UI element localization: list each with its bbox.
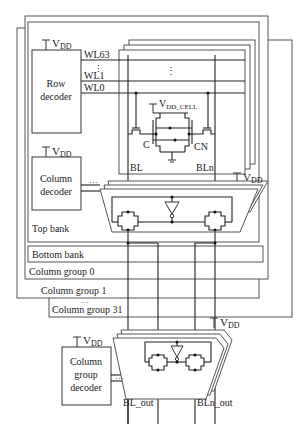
group-decoder-label-1: Column	[70, 356, 102, 367]
array-plane-1	[119, 50, 245, 174]
bottom-bank-label: Bottom bank	[32, 249, 84, 260]
row-decoder-label-1: Row	[47, 78, 67, 89]
array-ellipsis: ⋮	[166, 65, 176, 76]
column-decoder-label-1: Column	[40, 173, 72, 184]
node-c-label: C	[143, 139, 150, 150]
bln-label: BLn	[196, 162, 214, 173]
bl-out-label: BL_out	[123, 397, 154, 408]
column-bus-ellipsis: …	[89, 175, 98, 185]
bln-out-label: BLn_out	[197, 397, 233, 408]
vdd-label-group-decoder: VDD	[83, 334, 103, 348]
wordline-label-0: WL0	[84, 82, 105, 93]
vdd-symbol-group-decoder	[73, 337, 81, 347]
sram-architecture-diagram: VDD Row decoder WL63 ⋮ WL1 WL0 ⋮ VDD_CEL…	[0, 0, 304, 424]
vdd-label-bottom-mux: VDD	[220, 316, 240, 330]
column-group-1-label: Column group 1	[41, 285, 107, 296]
row-decoder-label-2: decoder	[40, 91, 72, 102]
bl-label: BL	[130, 162, 143, 173]
bottom-mux-plane-1	[113, 338, 224, 399]
group-bus-ellipsis: …	[115, 371, 124, 381]
column-group-31-label: Column group 31	[52, 304, 123, 315]
vdd-symbol-bottom-mux	[210, 318, 218, 328]
column-decoder-label-2: decoder	[40, 186, 72, 197]
group-decoder-label-2: group	[74, 369, 97, 380]
wordline-label-1: WL1	[84, 70, 105, 81]
column-group-0-label: Column group 0	[29, 266, 95, 277]
node-cn-label: CN	[194, 141, 208, 152]
wordline-label-63: WL63	[84, 49, 110, 60]
group-decoder-label-3: decoder	[70, 382, 102, 393]
top-mux-plane-1	[100, 189, 258, 232]
top-bank-label: Top bank	[32, 223, 69, 234]
